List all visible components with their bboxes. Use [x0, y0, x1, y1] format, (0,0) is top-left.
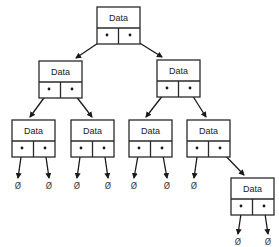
binary-tree-diagram: DataDataDataDataDataDataDataData ØØØØØØØ…: [0, 0, 279, 247]
null-symbol: Ø: [46, 181, 52, 191]
tree-node: Data: [71, 120, 114, 157]
left-pointer-dot: [21, 147, 24, 150]
tree-node: Data: [39, 61, 82, 98]
null-symbol: Ø: [74, 181, 80, 191]
right-pointer-dot: [161, 147, 164, 150]
node-label: Data: [24, 126, 43, 136]
right-pointer-dot: [103, 147, 106, 150]
right-pointer-dot: [219, 147, 222, 150]
left-pointer-dot: [196, 147, 199, 150]
left-pointer-dot: [48, 88, 51, 91]
left-pointer-dot: [138, 147, 141, 150]
right-pointer-dot: [71, 88, 74, 91]
tree-node: Data: [157, 60, 200, 97]
null-symbol: Ø: [15, 181, 21, 191]
node-label: Data: [109, 13, 128, 23]
right-pointer-dot: [189, 87, 192, 90]
node-label: Data: [169, 66, 188, 76]
right-pointer-dot: [44, 147, 47, 150]
tree-node: Data: [97, 7, 140, 44]
tree-node: Data: [12, 120, 55, 157]
tree-node: Data: [187, 120, 230, 157]
null-symbol: Ø: [265, 237, 271, 247]
right-pointer-dot: [263, 205, 266, 208]
left-pointer-dot: [106, 34, 109, 37]
right-pointer-dot: [129, 34, 132, 37]
left-pointer-dot: [80, 147, 83, 150]
null-symbol: Ø: [105, 181, 111, 191]
null-symbol: Ø: [235, 237, 241, 247]
node-label: Data: [141, 126, 160, 136]
node-label: Data: [51, 67, 70, 77]
node-label: Data: [199, 126, 218, 136]
left-pointer-dot: [240, 205, 243, 208]
null-symbol: Ø: [191, 181, 197, 191]
tree-node: Data: [129, 120, 172, 157]
null-symbol: Ø: [164, 181, 170, 191]
tree-node: Data: [231, 178, 274, 215]
node-label: Data: [83, 126, 102, 136]
left-pointer-dot: [166, 87, 169, 90]
node-label: Data: [243, 184, 262, 194]
null-symbol: Ø: [131, 181, 137, 191]
